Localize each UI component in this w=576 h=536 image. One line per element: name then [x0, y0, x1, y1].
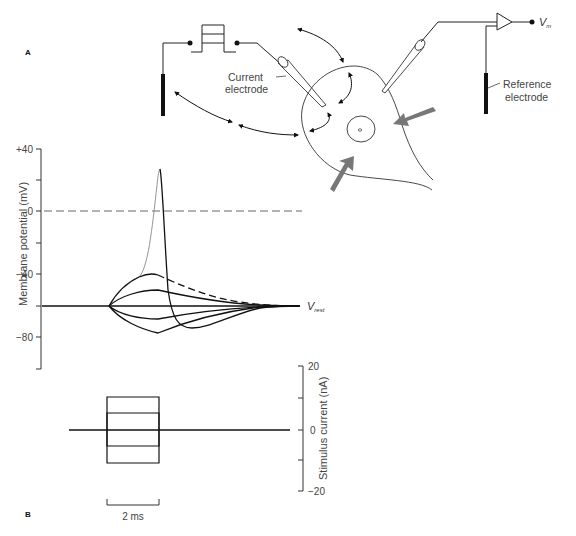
grey-arrow-bottom	[330, 156, 354, 192]
vm-label: Vm	[539, 16, 551, 29]
stim-tick-minus20: −20	[308, 486, 325, 497]
tick-minus80: −80	[16, 332, 33, 343]
stimulator-circuit	[161, 25, 283, 116]
current-electrode-label-2: electrode	[225, 83, 268, 95]
stimulus-pulses	[69, 397, 290, 463]
figure-canvas: A Current electrode	[0, 0, 576, 536]
panel-a-label: A	[25, 48, 31, 57]
neuron-cell	[302, 66, 433, 190]
ground-electrode-left	[161, 74, 165, 116]
pulse-plus5	[107, 413, 159, 430]
pulse-minus5	[107, 430, 159, 446]
time-scale-bar	[107, 499, 159, 505]
recording-electrode	[382, 22, 497, 93]
trace-depol-small	[109, 290, 300, 306]
scale-bar-label: 2 ms	[122, 511, 144, 522]
pulse-generator-icon	[191, 25, 236, 52]
trace-hyperpol-large	[109, 306, 300, 333]
current-electrode-label-1: Current	[228, 71, 263, 83]
panel-b-label: B	[25, 510, 31, 519]
nucleolus	[358, 129, 362, 131]
vrest-label: Vrest	[307, 300, 325, 313]
trace-ap-rise	[139, 169, 160, 277]
membrane-potential-axis	[36, 149, 41, 369]
trace-depol-large-tail	[158, 275, 300, 306]
stim-tick-20: 20	[308, 361, 320, 372]
membrane-potential-ylabel: Membrane potential (mV)	[17, 182, 29, 306]
stimulus-current-axis	[298, 366, 303, 491]
reference-electrode-label-2: electrode	[505, 91, 548, 103]
stimulus-current-ylabel: Stimulus current (nA)	[317, 377, 329, 480]
reference-electrode	[484, 73, 488, 114]
stim-tick-0: 0	[310, 425, 316, 436]
trace-ap-fall	[160, 169, 300, 328]
current-flow-arrows	[175, 29, 352, 135]
reference-electrode-label-1: Reference	[503, 78, 552, 90]
membrane-traces	[42, 169, 300, 333]
tick-plus40: +40	[16, 144, 33, 155]
